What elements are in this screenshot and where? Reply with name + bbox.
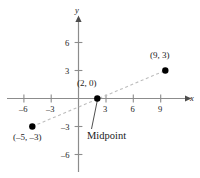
- x-tick-label-3: 3: [103, 105, 107, 114]
- midpoint-callout-label: Midpoint: [87, 131, 126, 142]
- x-tick-label-9: 9: [158, 105, 162, 114]
- point-marker-neg5-neg3: [29, 123, 35, 129]
- y-tick-label-3: 3: [65, 67, 69, 76]
- point-label-neg5-neg3: (–5, –3): [13, 133, 42, 142]
- x-tick-label-6: 6: [131, 105, 135, 114]
- y-axis-label: y: [75, 6, 79, 15]
- y-tick-label-6: 6: [65, 39, 69, 48]
- point-label-2-0: (2, 0): [77, 79, 97, 88]
- x-tick-label-neg6: –6: [19, 105, 28, 114]
- y-axis: [75, 16, 81, 173]
- midpoint-leader-line: [92, 101, 98, 130]
- plot-canvas: [0, 0, 200, 178]
- point-marker-9-3: [162, 67, 168, 73]
- point-label-9-3: (9, 3): [150, 51, 170, 60]
- coordinate-plane-figure: x y –6 –3 3 6 9 6 3 –3 –6 (9, 3) (2, 0) …: [0, 0, 200, 178]
- x-axis-label: x: [190, 94, 194, 103]
- point-marker-2-0: [94, 95, 100, 101]
- y-tick-label-neg3: –3: [61, 123, 70, 132]
- y-tick-label-neg6: –6: [61, 151, 70, 160]
- x-tick-label-neg3: –3: [46, 105, 55, 114]
